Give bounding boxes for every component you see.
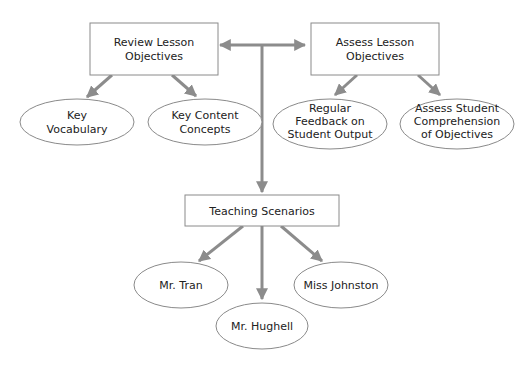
connectors <box>87 45 440 299</box>
label: Review Lesson <box>114 36 195 49</box>
label: Miss Johnston <box>303 279 378 292</box>
ellipse-mr-tran: Mr. Tran <box>134 262 228 308</box>
label: Objectives <box>125 50 183 63</box>
ellipse-regular-feedback: Regular Feedback on Student Output <box>273 99 387 149</box>
ellipse-miss-johnston: Miss Johnston <box>294 262 388 308</box>
ellipse-key-content-concepts: Key Content Concepts <box>148 99 262 145</box>
label: Mr. Hughell <box>231 320 293 333</box>
box-teaching-scenarios: Teaching Scenarios <box>185 195 339 226</box>
arrow-to-key-vocab <box>87 75 112 97</box>
arrow-to-tran <box>199 226 243 261</box>
arrow-to-regular-feedback <box>335 75 357 95</box>
ellipse-mr-hughell: Mr. Hughell <box>216 303 308 349</box>
arrow-to-johnston <box>281 226 322 261</box>
label: Assess Student <box>415 102 500 115</box>
ellipse-key-vocabulary: Key Vocabulary <box>20 99 134 145</box>
label: Mr. Tran <box>159 279 202 292</box>
ellipse-assess-student: Assess Student Comprehension of Objectiv… <box>400 99 514 149</box>
label: Assess Lesson <box>336 36 415 49</box>
label: Comprehension <box>414 115 500 128</box>
box-review-lesson: Review Lesson Objectives <box>90 23 218 75</box>
arrow-to-key-content <box>172 75 196 96</box>
label: Key Content <box>171 109 239 122</box>
concept-map: Review Lesson Objectives Assess Lesson O… <box>0 0 517 369</box>
label: Key <box>67 109 87 122</box>
box-assess-lesson: Assess Lesson Objectives <box>311 23 439 75</box>
label: of Objectives <box>421 128 493 141</box>
arrow-to-assess-student <box>418 75 440 95</box>
label: Vocabulary <box>47 123 108 136</box>
label: Concepts <box>179 123 230 136</box>
label: Objectives <box>346 50 404 63</box>
label: Student Output <box>287 128 373 141</box>
label: Feedback on <box>295 115 365 128</box>
label: Regular <box>309 102 352 115</box>
label: Teaching Scenarios <box>208 205 315 218</box>
